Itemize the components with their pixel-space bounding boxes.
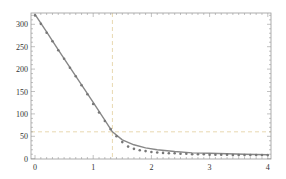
data-point [144, 150, 147, 153]
data-point [156, 151, 159, 154]
x-tick-label: 1 [91, 163, 95, 172]
data-point [104, 120, 107, 123]
y-tick-label: 50 [20, 132, 28, 141]
data-point [255, 154, 258, 157]
y-tick-label: 100 [16, 110, 28, 119]
data-point [40, 23, 43, 26]
x-tick-label: 2 [149, 163, 153, 172]
data-point [86, 93, 89, 96]
data-point [179, 152, 182, 155]
data-point [261, 154, 264, 157]
y-tick-label: 250 [16, 43, 28, 52]
data-point [267, 154, 270, 157]
data-point [138, 149, 141, 152]
data-point [191, 153, 194, 156]
data-point [226, 153, 229, 156]
data-point [80, 84, 83, 87]
data-point [150, 151, 153, 154]
data-point [57, 49, 60, 52]
data-point [197, 153, 200, 156]
data-point [127, 145, 130, 148]
x-tick-label: 3 [208, 163, 212, 172]
data-point [115, 135, 118, 138]
data-point [220, 153, 223, 156]
data-point [173, 152, 176, 155]
plot-area: 01234050100150200250300 [16, 13, 271, 172]
data-point [69, 66, 72, 69]
fit-curve-line [35, 14, 268, 154]
data-point [208, 153, 211, 156]
data-point [249, 154, 252, 157]
x-tick-label: 0 [33, 163, 37, 172]
x-tick-label: 4 [266, 163, 270, 172]
data-point [162, 152, 165, 155]
y-tick-label: 0 [24, 155, 28, 164]
data-point [202, 153, 205, 156]
data-point [232, 154, 235, 157]
chart: 01234050100150200250300 [0, 0, 286, 179]
data-point [237, 154, 240, 157]
y-tick-label: 150 [16, 88, 28, 97]
plot-frame [31, 13, 271, 159]
data-point [121, 141, 124, 144]
data-point [109, 128, 112, 131]
data-point [185, 152, 188, 155]
data-point [92, 103, 95, 106]
y-tick-label: 300 [16, 20, 28, 29]
data-point [74, 75, 77, 78]
data-point [45, 32, 48, 35]
data-point [214, 153, 217, 156]
data-point [98, 111, 101, 114]
data-point [63, 57, 66, 60]
data-point [243, 154, 246, 157]
y-tick-label: 200 [16, 65, 28, 74]
data-point [133, 148, 136, 151]
data-point [168, 152, 171, 155]
data-point [51, 40, 54, 43]
data-point [34, 14, 37, 17]
